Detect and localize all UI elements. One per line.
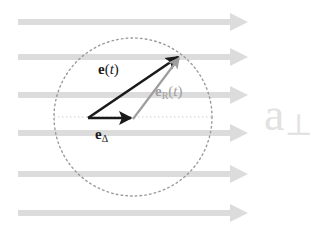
- field-arrow-shaft: [18, 130, 230, 136]
- field-arrow-head: [230, 86, 248, 104]
- field-arrow-shaft: [18, 171, 230, 177]
- field-arrow-head: [230, 124, 248, 142]
- field-arrow-shaft: [18, 54, 230, 60]
- field-arrow-head: [230, 165, 248, 183]
- diagram-canvas: [0, 0, 320, 231]
- vector-e-r-of-t: [133, 58, 179, 119]
- field-arrow-head: [230, 13, 248, 31]
- field-arrow-shaft: [18, 19, 230, 25]
- field-arrow-head: [230, 48, 248, 66]
- vector-e-of-t: [88, 57, 178, 118]
- field-arrow-shaft: [18, 210, 230, 216]
- vector-diagram-figure: e(t) eΔ eR(t) a⊥: [0, 0, 320, 231]
- field-arrow-head: [230, 204, 248, 222]
- vector-group: [88, 57, 179, 119]
